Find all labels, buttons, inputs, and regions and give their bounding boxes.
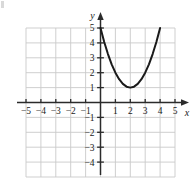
y-axis-label: y <box>89 10 95 21</box>
coordinate-plane: −5−4−3−2−11234554321−1−2−3−4xy <box>0 0 195 178</box>
y-axis-tick-label: 2 <box>90 68 95 78</box>
x-axis-tick-label: 5 <box>173 106 178 116</box>
y-axis-tick-label: 4 <box>90 38 95 48</box>
y-axis-arrowhead <box>97 12 103 20</box>
y-axis-tick-label: −3 <box>84 143 94 153</box>
x-axis-tick-label: −5 <box>21 106 31 116</box>
graph-figure: −5−4−3−2−11234554321−1−2−3−4xy <box>0 0 195 178</box>
x-axis-tick-label: 1 <box>113 106 118 116</box>
x-axis-tick-label: 2 <box>128 106 133 116</box>
y-axis-tick-label: −1 <box>84 113 94 123</box>
y-axis-tick-label: 3 <box>90 53 95 63</box>
x-axis-arrowhead <box>181 99 189 105</box>
y-axis-tick-label: −4 <box>84 158 94 168</box>
y-axis-tick-label: 5 <box>90 23 95 33</box>
x-axis-tick-label: −2 <box>66 106 76 116</box>
x-axis-tick-label: −3 <box>51 106 61 116</box>
y-axis-tick-label: 1 <box>90 83 95 93</box>
x-axis-tick-label: −4 <box>36 106 46 116</box>
x-axis-tick-label: 4 <box>158 106 163 116</box>
y-axis-tick-label: −2 <box>84 128 94 138</box>
x-axis-label: x <box>184 107 190 118</box>
x-axis-tick-label: 3 <box>143 106 148 116</box>
